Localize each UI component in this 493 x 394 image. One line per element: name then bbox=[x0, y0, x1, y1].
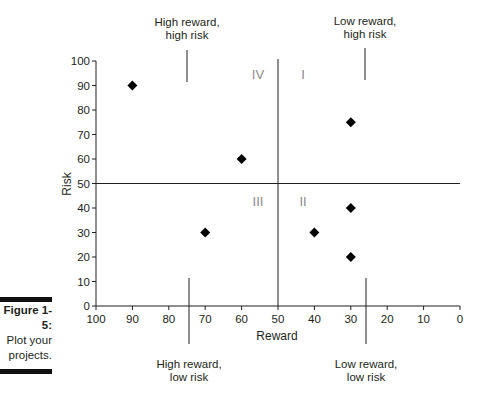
annotation-line-2: low risk bbox=[170, 371, 209, 383]
annotations: High reward,high riskLow reward,high ris… bbox=[154, 15, 397, 383]
annotation-line-2: high risk bbox=[344, 28, 387, 40]
y-tick-label: 90 bbox=[77, 80, 90, 92]
x-tick-label: 60 bbox=[235, 313, 248, 325]
y-tick-label: 10 bbox=[77, 276, 90, 288]
x-tick-label: 30 bbox=[344, 313, 357, 325]
quadrant-label: II bbox=[299, 194, 306, 209]
annotation-line-2: high risk bbox=[166, 29, 209, 41]
quadrant-label: III bbox=[253, 194, 264, 209]
diamond-marker bbox=[237, 154, 247, 164]
y-tick-label: 100 bbox=[71, 55, 90, 67]
x-tick-label: 80 bbox=[162, 313, 175, 325]
x-tick-label: 90 bbox=[126, 313, 139, 325]
y-axis-label: Risk bbox=[60, 171, 74, 195]
y-tick-label: 80 bbox=[77, 104, 90, 116]
y-tick-label: 60 bbox=[77, 153, 90, 165]
annotation-line-1: Low reward, bbox=[335, 358, 398, 370]
data-points bbox=[127, 81, 355, 263]
annotation-line-1: High reward, bbox=[156, 358, 221, 370]
y-tick-label: 30 bbox=[77, 227, 90, 239]
x-tick-label: 0 bbox=[457, 313, 463, 325]
y-tick-label: 0 bbox=[84, 300, 90, 312]
x-tick-label: 20 bbox=[381, 313, 394, 325]
diamond-marker bbox=[346, 252, 356, 262]
x-tick-label: 50 bbox=[272, 313, 285, 325]
quadrant-labels: IVIIIIII bbox=[252, 67, 307, 209]
axes: 0102030405060708090100100908070605040302… bbox=[71, 55, 463, 325]
y-tick-label: 50 bbox=[77, 178, 90, 190]
diamond-marker bbox=[346, 203, 356, 213]
x-tick-label: 70 bbox=[199, 313, 212, 325]
annotation-line-2: low risk bbox=[347, 371, 386, 383]
diamond-marker bbox=[127, 81, 137, 91]
x-axis-label: Reward bbox=[256, 329, 297, 343]
y-tick-label: 20 bbox=[77, 251, 90, 263]
x-tick-label: 10 bbox=[417, 313, 430, 325]
annotation-line-1: High reward, bbox=[154, 16, 219, 28]
diamond-marker bbox=[309, 228, 319, 238]
y-tick-label: 70 bbox=[77, 129, 90, 141]
quadrant-label: I bbox=[301, 67, 305, 82]
risk-reward-scatter-chart: 0102030405060708090100100908070605040302… bbox=[0, 0, 493, 394]
quadrant-label: IV bbox=[252, 67, 265, 82]
diamond-marker bbox=[346, 117, 356, 127]
quadrant-dividers bbox=[96, 59, 460, 306]
x-tick-label: 100 bbox=[86, 313, 105, 325]
annotation-line-1: Low reward, bbox=[334, 15, 397, 27]
y-tick-label: 40 bbox=[77, 202, 90, 214]
diamond-marker bbox=[200, 228, 210, 238]
x-tick-label: 40 bbox=[308, 313, 321, 325]
